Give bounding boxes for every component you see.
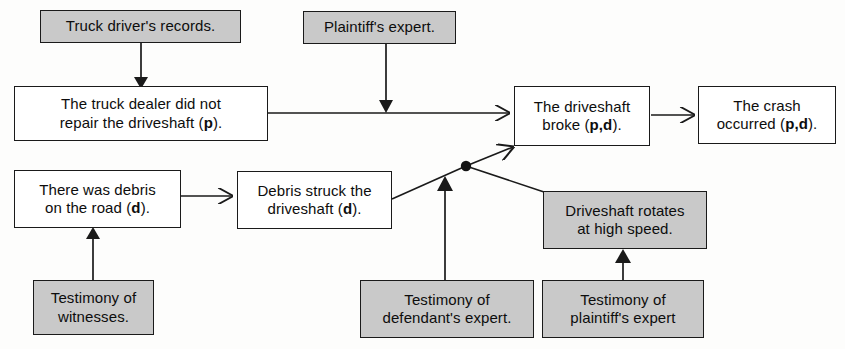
node-truck-driver-records[interactable]: Truck driver's records. [40, 10, 241, 43]
node-driveshaft-rotates[interactable]: Driveshaft rotatesat high speed. [543, 191, 707, 249]
node-driveshaft-broke[interactable]: The driveshaftbroke (p,d). [514, 86, 650, 146]
node-label: Testimony ofplaintiff's expert [564, 291, 681, 328]
node-testimony-defendants-expert[interactable]: Testimony ofdefendant's expert. [360, 280, 534, 338]
edge-defendants-expert-to-junction [437, 176, 453, 280]
convergence-node [461, 161, 471, 171]
node-testimony-plaintiffs-expert[interactable]: Testimony ofplaintiff's expert [542, 280, 704, 338]
node-label: There was debrison the road (d). [33, 181, 162, 218]
node-truck-dealer-did-not-repair[interactable]: The truck dealer did notrepair the drive… [14, 86, 268, 141]
node-label: Testimony ofdefendant's expert. [376, 291, 517, 328]
node-label: Truck driver's records. [60, 17, 222, 35]
node-plaintiffs-expert-top[interactable]: Plaintiff's expert. [303, 11, 456, 44]
edge-records-to-dealer [134, 43, 148, 89]
edge-junction-to-driveshaft-broke [466, 147, 513, 166]
edge-plaintiff-expert-down [379, 44, 393, 113]
node-label: Plaintiff's expert. [318, 18, 441, 36]
edge-witnesses-to-debris-road [86, 227, 100, 280]
node-label: Testimony ofwitnesses. [45, 289, 142, 326]
node-label: Driveshaft rotatesat high speed. [559, 202, 690, 239]
edge-debris-struck-to-junction [392, 166, 466, 199]
argument-diagram-canvas: Truck driver's records.Plaintiff's exper… [0, 0, 845, 349]
node-label: Debris struck thedriveshaft (d). [251, 182, 377, 219]
node-crash-occurred[interactable]: The crashoccurred (p,d). [698, 86, 836, 144]
edge-junction-to-driveshaft-rotates [466, 166, 544, 192]
node-debris-struck-driveshaft[interactable]: Debris struck thedriveshaft (d). [237, 171, 392, 229]
node-label: The crashoccurred (p,d). [711, 97, 824, 134]
edge-plaintiffs-expert-to-rotates [615, 249, 631, 280]
node-debris-on-road[interactable]: There was debrison the road (d). [14, 170, 181, 228]
node-label: The truck dealer did notrepair the drive… [54, 95, 229, 132]
node-testimony-of-witnesses[interactable]: Testimony ofwitnesses. [33, 280, 154, 335]
node-label: The driveshaftbroke (p,d). [528, 98, 636, 135]
